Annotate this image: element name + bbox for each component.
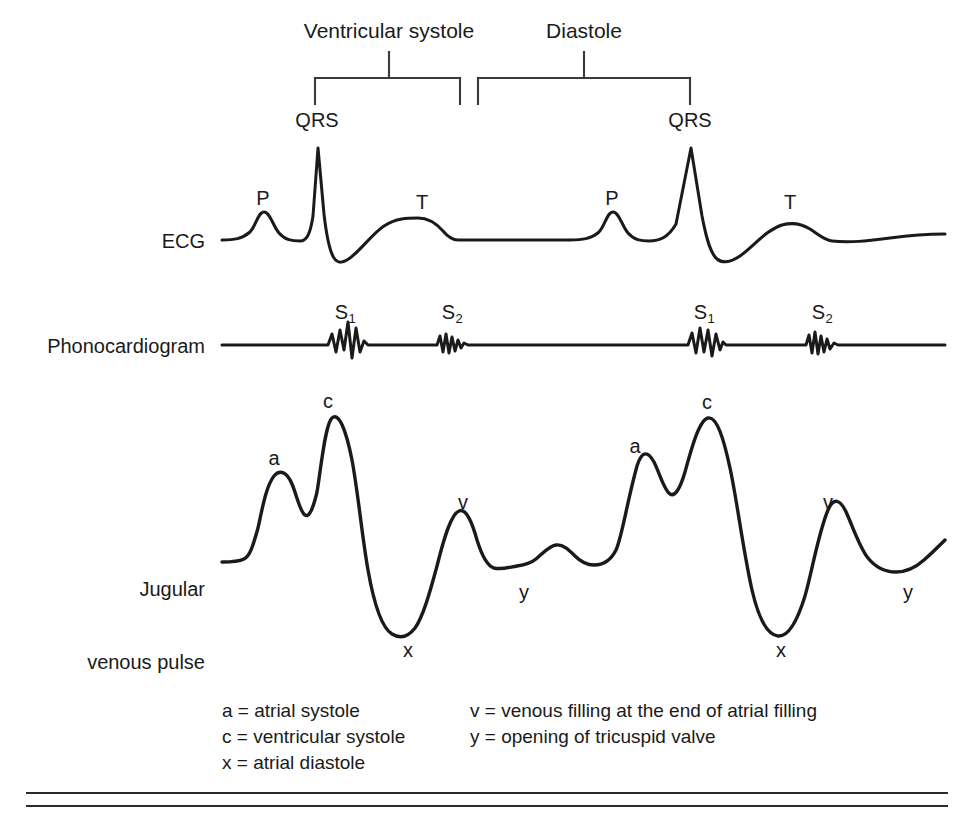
jvp-label-line-1: Jugular	[87, 577, 205, 601]
jvp-label-v-1: v	[458, 490, 468, 514]
jugular-venous-pulse-trace	[222, 417, 945, 637]
jvp-label-v-2: v	[823, 490, 833, 514]
phase-bracket-ventricular-systole	[315, 52, 460, 104]
heart-sound-label-s2-2: S2	[812, 300, 833, 324]
heart-sound-s1-2-sub: 1	[708, 311, 715, 326]
legend-item-x: x = atrial diastole	[222, 752, 405, 774]
legend-item-y: y = opening of tricuspid valve	[470, 726, 817, 748]
row-label-ecg: ECG	[162, 229, 205, 253]
heart-sound-s1-1-letter: S	[335, 301, 348, 323]
jvp-label-c-1: c	[323, 389, 333, 413]
ecg-trace	[222, 148, 945, 262]
heart-sound-s2-2-letter: S	[812, 301, 825, 323]
legend-right-column: v = venous filling at the end of atrial …	[470, 700, 817, 748]
legend-left-column: a = atrial systole c = ventricular systo…	[222, 700, 405, 774]
ecg-label-p-1: P	[256, 186, 269, 210]
heart-sound-label-s1-2: S1	[694, 300, 715, 324]
ecg-label-p-2: P	[605, 186, 618, 210]
jvp-label-a-1: a	[268, 446, 279, 470]
jvp-label-a-2: a	[629, 434, 640, 458]
phase-bracket-diastole	[478, 52, 690, 104]
phonocardiogram-trace	[222, 322, 945, 358]
ecg-label-qrs-2: QRS	[668, 108, 711, 132]
heart-sound-s2-1-sub: 2	[456, 311, 463, 326]
legend-item-a: a = atrial systole	[222, 700, 405, 722]
heart-sound-s2-1-letter: S	[442, 301, 455, 323]
phase-label-ventricular-systole: Ventricular systole	[304, 18, 474, 44]
jvp-label-y-1: y	[519, 580, 529, 604]
bottom-rule	[26, 793, 948, 806]
phase-label-diastole: Diastole	[546, 18, 622, 44]
heart-sound-label-s2-1: S2	[442, 300, 463, 324]
heart-sound-s2-2-sub: 2	[826, 311, 833, 326]
ecg-label-t-1: T	[416, 190, 428, 214]
row-label-jugular-venous-pulse: Jugular venous pulse	[87, 528, 205, 723]
ecg-label-qrs-1: QRS	[295, 108, 338, 132]
jvp-label-c-2: c	[702, 390, 712, 414]
ecg-label-t-2: T	[784, 190, 796, 214]
legend-item-v: v = venous filling at the end of atrial …	[470, 700, 817, 722]
legend-item-c: c = ventricular systole	[222, 726, 405, 748]
row-label-phonocardiogram: Phonocardiogram	[47, 334, 205, 358]
heart-sound-s1-1-sub: 1	[349, 311, 356, 326]
cardiac-cycle-figure: Ventricular systole Diastole ECG Phonoca…	[0, 0, 972, 826]
jvp-label-x-2: x	[776, 638, 786, 662]
heart-sound-label-s1-1: S1	[335, 300, 356, 324]
jvp-label-y-2: y	[903, 580, 913, 604]
heart-sound-s1-2-letter: S	[694, 301, 707, 323]
jvp-label-x-1: x	[403, 638, 413, 662]
jvp-label-line-2: venous pulse	[87, 650, 205, 674]
